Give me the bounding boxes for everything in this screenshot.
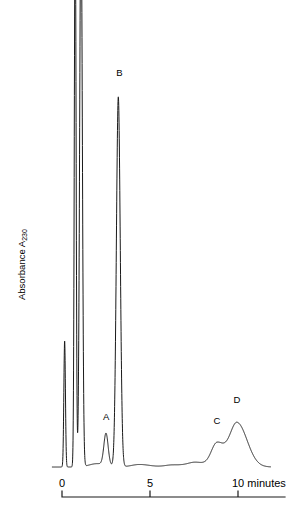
- peak-label-d: D: [234, 394, 241, 405]
- x-tick-label-5: 5: [147, 477, 153, 489]
- peak-label-c: C: [213, 415, 220, 426]
- x-tick-label-10-minutes: 10 minutes: [232, 477, 286, 489]
- chromatogram-figure: Absorbance A230 0 5 10 minutes A B C D: [0, 0, 295, 507]
- chromatogram-plot: [0, 0, 295, 507]
- peak-label-b: B: [116, 67, 122, 78]
- x-axis-group: [62, 491, 285, 497]
- x-axis-line: [62, 491, 285, 497]
- y-axis-label-text: Absorbance A: [16, 241, 27, 300]
- y-axis-label-subscript: 230: [21, 229, 28, 241]
- x-tick-label-0: 0: [59, 477, 65, 489]
- peak-label-a: A: [103, 411, 109, 422]
